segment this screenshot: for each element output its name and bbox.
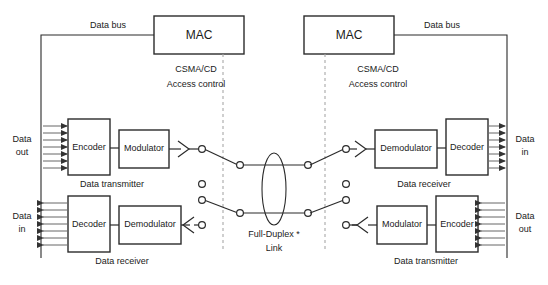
contact-left-upper-a[interactable] xyxy=(199,146,206,153)
contact-right-upper-a[interactable] xyxy=(343,146,350,153)
contact-left-idle[interactable] xyxy=(199,181,206,188)
left-data-bus-label: Data bus xyxy=(90,20,127,30)
label-left-decoder: Decoder xyxy=(72,219,106,229)
right-data-in-arrow-bundle xyxy=(489,126,505,168)
csma-label-right-line1: CSMA/CD xyxy=(357,64,399,74)
right-data-out-label-line1: Data xyxy=(515,211,534,221)
csma-label-right-line2: Access control xyxy=(349,79,408,89)
left-switch-lower[interactable] xyxy=(204,200,238,213)
mac-label-left: MAC xyxy=(186,28,213,42)
left-transmit-driver-icon xyxy=(169,141,189,157)
left-data-in-label-line1: Data xyxy=(12,211,31,221)
contact-left-lower-b[interactable] xyxy=(237,210,244,217)
left-receive-amp-icon xyxy=(181,217,194,233)
left-data-out-label-line2: out xyxy=(16,147,29,157)
contact-left-lower-a[interactable] xyxy=(199,197,206,204)
contact-right-idle[interactable] xyxy=(343,181,350,188)
diagram-canvas: Data bus Data bus MAC MAC CSMA/CD Access… xyxy=(0,0,548,285)
label-left-demodulator: Demodulator xyxy=(124,219,176,229)
label-right-encoder: Encoder xyxy=(440,219,474,229)
left-data-in-label-line2: in xyxy=(18,224,25,234)
label-right-modulator: Modulator xyxy=(382,219,422,229)
left-data-out-arrow-bundle xyxy=(43,126,67,168)
left-switch-upper[interactable] xyxy=(204,149,238,165)
caption-left-transmitter: Data transmitter xyxy=(80,179,144,189)
right-receive-amp-icon xyxy=(355,141,375,157)
right-data-in-label-line2: in xyxy=(521,147,528,157)
right-data-in-label-line1: Data xyxy=(515,134,534,144)
right-switch-lower[interactable] xyxy=(310,200,344,213)
right-switch-upper[interactable] xyxy=(310,149,344,165)
caption-right-transmitter: Data transmitter xyxy=(394,256,458,266)
csma-label-left-line2: Access control xyxy=(167,79,226,89)
left-data-in-arrow-bundle xyxy=(43,203,67,245)
right-data-bus-label: Data bus xyxy=(424,20,461,30)
full-duplex-link-label-line1: Full-Duplex * xyxy=(248,229,300,239)
contact-left-upper-b[interactable] xyxy=(237,162,244,169)
right-data-out-arrow-bundle xyxy=(481,203,505,245)
label-left-encoder: Encoder xyxy=(72,142,106,152)
caption-right-receiver: Data receiver xyxy=(397,179,451,189)
right-data-out-label-line2: out xyxy=(519,224,532,234)
mac-label-right: MAC xyxy=(336,28,363,42)
label-right-decoder: Decoder xyxy=(450,142,484,152)
label-left-modulator: Modulator xyxy=(124,143,164,153)
contact-right-lower-a[interactable] xyxy=(343,197,350,204)
diagram-svg: Data bus Data bus MAC MAC CSMA/CD Access… xyxy=(0,0,548,285)
left-data-out-label-line1: Data xyxy=(12,134,31,144)
right-transmit-driver-icon xyxy=(352,217,377,233)
full-duplex-link-label-line2: Link xyxy=(266,243,283,253)
caption-left-receiver: Data receiver xyxy=(95,256,149,266)
full-duplex-link-ellipse xyxy=(262,153,286,225)
csma-label-left-line1: CSMA/CD xyxy=(175,64,217,74)
contact-left-recv-idle[interactable] xyxy=(199,222,206,229)
contact-right-xmit-idle[interactable] xyxy=(343,222,350,229)
label-right-demodulator: Demodulator xyxy=(380,143,432,153)
